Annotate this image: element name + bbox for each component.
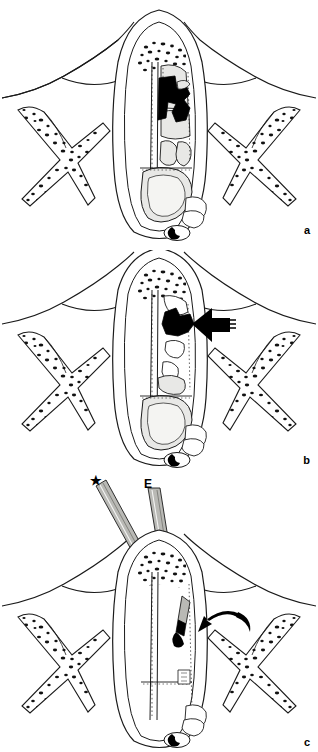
right-turbinate-bone-c [208, 614, 300, 713]
panel-b: b [0, 250, 318, 472]
figure-root: a [0, 0, 318, 752]
panel-a-illustration [0, 0, 318, 250]
right-turbinate-bone-a [208, 107, 300, 206]
panel-label-c: c [304, 737, 310, 748]
left-turbinate-bone-a [18, 107, 110, 206]
panel-c-illustration [0, 472, 318, 752]
right-turbinate-bone-b [208, 332, 300, 431]
panel-b-illustration [0, 250, 318, 472]
panel-c: c [0, 472, 318, 752]
panel-label-a: a [304, 225, 310, 236]
lesion-mass-a [158, 76, 190, 122]
left-turbinate-bone-c [18, 614, 110, 713]
endoscope-annotation-label: E [144, 478, 152, 490]
panel-label-b: b [303, 455, 310, 466]
left-turbinate-bone-b [18, 332, 110, 431]
panel-a: a [0, 0, 318, 250]
star-annotation-label: ★ [90, 474, 102, 487]
